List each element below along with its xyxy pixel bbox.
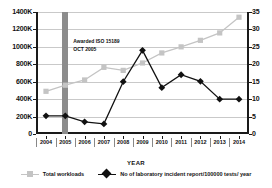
x-axis-title: YEAR bbox=[0, 160, 272, 166]
left-tick-label: 1400K bbox=[0, 8, 32, 15]
data-point bbox=[120, 78, 127, 85]
right-tick-mark bbox=[249, 99, 252, 100]
right-tick-mark bbox=[249, 117, 252, 118]
legend-item-total-workloads: Total workloads bbox=[21, 170, 84, 178]
data-point bbox=[121, 68, 126, 73]
x-tick-mark bbox=[181, 136, 182, 139]
x-label-separator bbox=[133, 138, 134, 147]
x-tick-mark bbox=[220, 136, 221, 139]
data-point bbox=[217, 30, 222, 35]
legend-label-total-workloads: Total workloads bbox=[43, 171, 84, 177]
x-label-separator bbox=[171, 138, 172, 147]
left-tick-label: 0 bbox=[0, 130, 32, 137]
x-label-separator bbox=[56, 138, 57, 147]
data-point bbox=[101, 65, 106, 70]
series-line-1 bbox=[46, 17, 239, 91]
data-point bbox=[63, 83, 68, 88]
right-tick-mark bbox=[249, 47, 252, 48]
series-layer bbox=[36, 12, 249, 134]
plot-area: Awarded ISO 15189 OCT 2005 bbox=[36, 12, 249, 134]
data-point bbox=[158, 84, 165, 91]
x-tick-mark bbox=[65, 136, 66, 139]
right-tick-label: 25 bbox=[252, 43, 272, 50]
right-tick-mark bbox=[249, 64, 252, 65]
right-tick-mark bbox=[249, 29, 252, 30]
x-label-separator bbox=[94, 138, 95, 147]
left-tick-mark bbox=[33, 12, 36, 13]
x-tick-mark bbox=[123, 136, 124, 139]
right-tick-label: 35 bbox=[252, 8, 272, 15]
data-point bbox=[159, 50, 164, 55]
left-tick-mark bbox=[33, 117, 36, 118]
x-tick-mark bbox=[162, 136, 163, 139]
data-point bbox=[140, 60, 145, 65]
left-tick-label: 200K bbox=[0, 113, 32, 120]
left-tick-label: 600K bbox=[0, 78, 32, 85]
data-point bbox=[43, 112, 50, 119]
right-tick-label: 10 bbox=[252, 95, 272, 102]
x-tick-mark bbox=[239, 136, 240, 139]
legend-swatch-square-icon bbox=[21, 170, 39, 178]
x-label-separator bbox=[191, 138, 192, 147]
x-tick-mark bbox=[200, 136, 201, 139]
data-point bbox=[179, 44, 184, 49]
x-tick-mark bbox=[104, 136, 105, 139]
x-tick-mark bbox=[46, 136, 47, 139]
x-tick-mark bbox=[143, 136, 144, 139]
legend-item-incident-reports: No of laboratory incident report/100000 … bbox=[98, 170, 251, 178]
chart-figure: Awarded ISO 15189 OCT 2005 0200K400K600K… bbox=[0, 0, 272, 188]
data-point bbox=[43, 89, 48, 94]
right-tick-mark bbox=[249, 82, 252, 83]
left-tick-mark bbox=[33, 29, 36, 30]
chart-legend: Total workloads No of laboratory inciden… bbox=[0, 170, 272, 178]
x-label-separator bbox=[114, 138, 115, 147]
data-point bbox=[101, 120, 108, 127]
x-tick-mark bbox=[85, 136, 86, 139]
data-point bbox=[178, 71, 185, 78]
left-tick-mark bbox=[33, 47, 36, 48]
x-tick-label: 2014 bbox=[228, 139, 250, 145]
right-tick-mark bbox=[249, 12, 252, 13]
x-label-separator bbox=[210, 138, 211, 147]
data-point bbox=[82, 77, 87, 82]
left-tick-mark bbox=[33, 82, 36, 83]
left-tick-mark bbox=[33, 134, 36, 135]
x-label-separator bbox=[229, 138, 230, 147]
left-tick-label: 1200K bbox=[0, 25, 32, 32]
legend-swatch-diamond-icon bbox=[98, 170, 116, 178]
left-tick-label: 1000K bbox=[0, 43, 32, 50]
data-point bbox=[81, 118, 88, 125]
left-tick-mark bbox=[33, 64, 36, 65]
left-tick-label: 800K bbox=[0, 60, 32, 67]
right-tick-label: 30 bbox=[252, 25, 272, 32]
figure-baseline bbox=[0, 187, 272, 188]
right-tick-label: 5 bbox=[252, 113, 272, 120]
x-label-separator bbox=[152, 138, 153, 147]
data-point bbox=[236, 15, 241, 20]
right-tick-label: 20 bbox=[252, 60, 272, 67]
x-label-separator bbox=[36, 138, 37, 147]
legend-label-incident-reports: No of laboratory incident report/100000 … bbox=[120, 171, 251, 177]
data-point bbox=[198, 38, 203, 43]
data-point bbox=[139, 47, 146, 54]
data-point bbox=[62, 112, 69, 119]
right-tick-label: 15 bbox=[252, 78, 272, 85]
data-point bbox=[236, 96, 243, 103]
x-label-separator bbox=[75, 138, 76, 147]
left-tick-label: 400K bbox=[0, 95, 32, 102]
right-tick-mark bbox=[249, 134, 252, 135]
left-tick-mark bbox=[33, 99, 36, 100]
right-tick-label: 0 bbox=[252, 130, 272, 137]
